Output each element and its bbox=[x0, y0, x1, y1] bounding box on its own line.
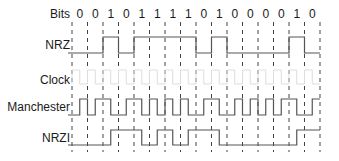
waveforms bbox=[0, 0, 339, 161]
manchester-waveform bbox=[68, 99, 320, 115]
nrzi-waveform bbox=[68, 130, 320, 145]
clock-waveform bbox=[72, 70, 320, 84]
line-coding-diagram: Bits NRZ Clock Manchester NRZI 001011110… bbox=[0, 0, 339, 161]
nrz-waveform bbox=[68, 37, 320, 53]
